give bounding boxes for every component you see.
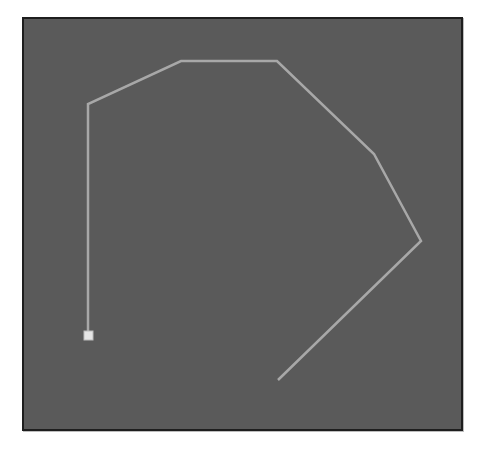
snake-path-line: [88, 61, 421, 380]
path-layer: [0, 0, 480, 455]
player-head-marker: [84, 331, 93, 340]
